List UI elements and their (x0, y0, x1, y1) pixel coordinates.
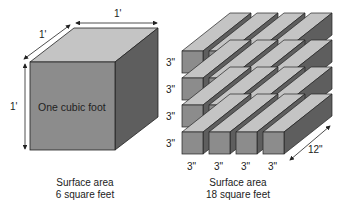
col-label-3: 3" (241, 162, 250, 172)
cube-face-label: One cubic foot (38, 102, 106, 113)
depth-label: 1' (39, 30, 46, 40)
col-label-4: 3" (268, 162, 277, 172)
left-caption-line2: 6 square feet (25, 189, 145, 201)
row-label-1: 3" (166, 58, 175, 68)
right-caption-line1: Surface area (178, 177, 298, 189)
col-label-1: 3" (187, 162, 196, 172)
left-caption: Surface area 6 square feet (25, 177, 145, 201)
row-label-4: 3" (166, 139, 175, 149)
left-caption-line1: Surface area (25, 177, 145, 189)
width-label: 1' (114, 9, 121, 19)
height-label: 1' (10, 102, 17, 112)
right-caption-line2: 18 square feet (178, 189, 298, 201)
bar-stack (182, 13, 332, 154)
length-label: 12" (308, 145, 323, 155)
col-label-2: 3" (214, 162, 223, 172)
right-caption: Surface area 18 square feet (178, 177, 298, 201)
row-label-3: 3" (166, 112, 175, 122)
cube (30, 28, 158, 150)
row-label-2: 3" (166, 85, 175, 95)
